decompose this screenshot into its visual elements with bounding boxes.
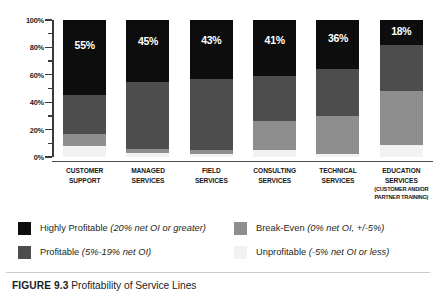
x-axis-category-label: MANAGEDSERVICES <box>111 166 184 185</box>
y-axis-minor-tick <box>48 60 52 61</box>
legend-label: Break-Even (0% net OI, +/-5%) <box>256 222 384 235</box>
y-axis-tick-label: 100% <box>26 16 44 25</box>
y-axis-minor-tick <box>48 115 52 116</box>
bar-segment[interactable]: 55% <box>63 20 106 95</box>
y-axis-tick-label: 0% <box>34 153 44 162</box>
bar-segment[interactable] <box>316 116 359 154</box>
x-axis-category-label: FIELDSERVICES <box>175 166 248 185</box>
bar-segment[interactable] <box>63 146 106 157</box>
legend-label-name: Unprofitable <box>256 247 309 257</box>
bar-slot: 45% <box>116 20 179 157</box>
bar-segment[interactable] <box>316 69 359 116</box>
legend-label-name: Highly Profitable <box>40 223 110 233</box>
legend-label-detail: (0% net OI, +/-5%) <box>307 223 384 233</box>
y-axis-major-tick <box>45 19 52 20</box>
bar-value-label: 55% <box>63 40 106 51</box>
category-label-subline: PARTNER TRAINING) <box>365 193 437 201</box>
bar-segment[interactable]: 36% <box>316 20 359 69</box>
bar-slot: 36% <box>306 20 369 157</box>
legend-item: Profitable (5%-19% net OI) <box>18 246 151 259</box>
bar-value-label: 18% <box>380 26 423 37</box>
x-axis-category-label: EDUCATIONSERVICES(CUSTOMER AND/ORPARTNER… <box>365 166 437 202</box>
y-axis-minor-tick <box>48 143 52 144</box>
bar-value-label: 43% <box>190 35 233 46</box>
stacked-bar[interactable]: 41% <box>253 20 296 157</box>
caption-title: Profitability of Service Lines <box>71 280 196 291</box>
y-axis-minor-tick <box>48 88 52 89</box>
chart-legend: Highly Profitable (20% net OI or greater… <box>18 222 430 266</box>
legend-color-swatch <box>18 222 31 235</box>
bar-value-label: 36% <box>316 33 359 44</box>
x-axis-category-label: TECHNICALSERVICES <box>301 166 374 185</box>
figure-caption: FIGURE 9.3 Profitability of Service Line… <box>12 280 196 291</box>
caption-divider <box>6 272 430 273</box>
y-axis-minor-tick <box>48 33 52 34</box>
legend-color-swatch <box>234 246 247 259</box>
bar-slot: 55% <box>53 20 116 157</box>
bar-slot: 43% <box>180 20 243 157</box>
bar-segment[interactable] <box>253 121 296 150</box>
bar-segment[interactable] <box>126 153 169 157</box>
category-label-line: CONSULTING <box>238 166 311 176</box>
y-axis-major-tick <box>45 156 52 157</box>
bar-slot: 41% <box>243 20 306 157</box>
bar-segment[interactable] <box>253 150 296 157</box>
y-axis-major-tick <box>45 74 52 75</box>
category-label-line: SERVICES <box>301 176 374 186</box>
stacked-bar[interactable]: 36% <box>316 20 359 157</box>
category-label-line: SUPPORT <box>48 176 121 186</box>
bar-segment[interactable]: 43% <box>190 20 233 79</box>
y-axis-major-tick <box>45 102 52 103</box>
category-label-line: SERVICES <box>365 176 437 186</box>
legend-label: Unprofitable (-5% net OI or less) <box>256 246 389 259</box>
legend-label-detail: (20% net OI or greater) <box>110 223 206 233</box>
legend-item: Break-Even (0% net OI, +/-5%) <box>234 222 384 235</box>
bar-segment[interactable]: 41% <box>253 20 296 76</box>
category-label-group: CUSTOMERSUPPORTMANAGEDSERVICESFIELDSERVI… <box>53 166 433 208</box>
bar-segment[interactable]: 45% <box>126 20 169 82</box>
x-axis-line <box>52 161 433 162</box>
bar-value-label: 45% <box>126 36 169 47</box>
bar-value-label: 41% <box>253 35 296 46</box>
stacked-bar[interactable]: 45% <box>126 20 169 157</box>
legend-item: Highly Profitable (20% net OI or greater… <box>18 222 206 235</box>
bar-segment[interactable]: 18% <box>380 20 423 45</box>
figure-number: FIGURE 9.3 <box>12 280 68 291</box>
bar-segment[interactable] <box>316 154 359 157</box>
bar-segment[interactable] <box>63 134 106 146</box>
y-axis-tick-label: 40% <box>30 98 44 107</box>
bar-segment[interactable] <box>63 95 106 133</box>
category-label-line: TECHNICAL <box>301 166 374 176</box>
stacked-bar[interactable]: 18% <box>380 20 423 157</box>
category-label-line: FIELD <box>175 166 248 176</box>
category-label-line: SERVICES <box>238 176 311 186</box>
y-axis-label-group: 0%20%40%60%80%100% <box>8 20 44 156</box>
x-axis-category-label: CONSULTINGSERVICES <box>238 166 311 185</box>
legend-color-swatch <box>234 222 247 235</box>
category-label-line: SERVICES <box>111 176 184 186</box>
bar-segment[interactable] <box>380 91 423 144</box>
legend-label-detail: (5%-19% net OI) <box>82 247 151 257</box>
figure-9-3: 0%20%40%60%80%100% 55%45%43%41%36%18% CU… <box>0 0 437 305</box>
bar-segment[interactable] <box>380 45 423 92</box>
y-axis-tick-label: 20% <box>30 125 44 134</box>
legend-label-name: Profitable <box>40 247 82 257</box>
category-label-line: CUSTOMER <box>48 166 121 176</box>
legend-label-name: Break-Even <box>256 223 307 233</box>
stacked-bar[interactable]: 43% <box>190 20 233 157</box>
y-axis-tick-label: 60% <box>30 70 44 79</box>
category-label-line: EDUCATION <box>365 166 437 176</box>
legend-label-detail: (-5% net OI or less) <box>309 247 390 257</box>
bar-segment[interactable] <box>190 154 233 157</box>
stacked-bar[interactable]: 55% <box>63 20 106 157</box>
category-label-subline: (CUSTOMER AND/OR <box>365 185 437 193</box>
legend-label: Profitable (5%-19% net OI) <box>40 246 151 259</box>
x-axis-category-label: CUSTOMERSUPPORT <box>48 166 121 185</box>
bars-plot-area: 55%45%43%41%36%18% <box>53 20 433 157</box>
bar-segment[interactable] <box>380 145 423 157</box>
bar-segment[interactable] <box>253 76 296 121</box>
bar-segment[interactable] <box>190 79 233 150</box>
legend-label: Highly Profitable (20% net OI or greater… <box>40 222 206 235</box>
y-axis-major-tick <box>45 129 52 130</box>
bar-segment[interactable] <box>126 82 169 149</box>
